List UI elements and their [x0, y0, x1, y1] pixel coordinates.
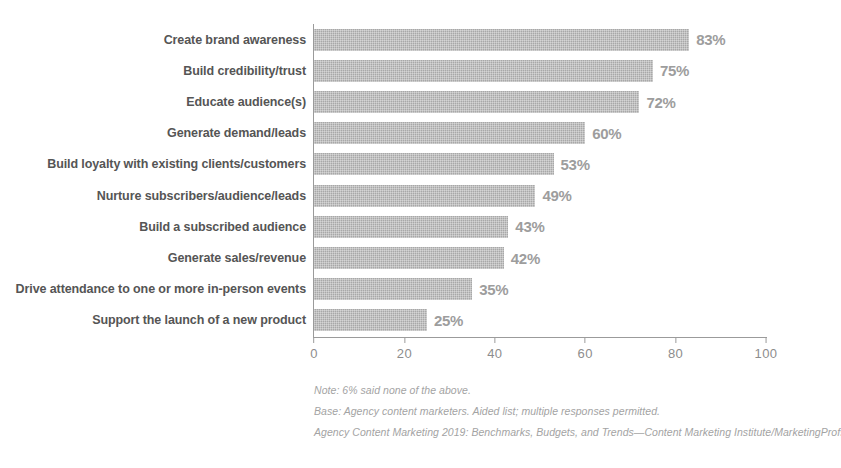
- category-label: Nurture subscribers/audience/leads: [97, 189, 306, 203]
- bar-value-label: 83%: [696, 31, 725, 48]
- bar: [314, 29, 689, 51]
- bar-row: Nurture subscribers/audience/leads49%: [314, 180, 766, 211]
- bar-value-label: 60%: [592, 125, 621, 142]
- bar-row: Educate audience(s)72%: [314, 86, 766, 117]
- category-label: Build loyalty with existing clients/cust…: [47, 157, 306, 171]
- tick-mark: [765, 338, 766, 343]
- bar: [314, 185, 535, 207]
- tick-label: 0: [310, 346, 318, 361]
- footnote-line: Note: 6% said none of the above.: [314, 380, 834, 401]
- bar-value-label: 75%: [660, 62, 689, 79]
- bar-row: Build loyalty with existing clients/cust…: [314, 149, 766, 180]
- bar: [314, 216, 508, 238]
- bar-row: Support the launch of a new product25%: [314, 305, 766, 336]
- bar: [314, 91, 639, 113]
- bar-row: Build credibility/trust75%: [314, 55, 766, 86]
- category-label: Generate demand/leads: [167, 126, 306, 140]
- plot-area: Create brand awareness83%Build credibili…: [314, 24, 766, 336]
- bar: [314, 122, 585, 144]
- bar-value-label: 42%: [511, 250, 540, 267]
- category-label: Build a subscribed audience: [139, 220, 306, 234]
- category-label: Educate audience(s): [186, 95, 306, 109]
- x-axis-tick: 40: [487, 338, 502, 361]
- category-label: Create brand awareness: [164, 33, 306, 47]
- bar: [314, 60, 653, 82]
- bar: [314, 247, 504, 269]
- bar-row: Build a subscribed audience43%: [314, 211, 766, 242]
- footnote-line: Agency Content Marketing 2019: Benchmark…: [314, 422, 834, 443]
- tick-mark: [494, 338, 495, 343]
- tick-mark: [585, 338, 586, 343]
- x-axis-tick: 20: [397, 338, 412, 361]
- bar: [314, 153, 554, 175]
- tick-label: 100: [755, 346, 778, 361]
- bar-row: Generate demand/leads60%: [314, 118, 766, 149]
- x-axis-tick: 80: [668, 338, 683, 361]
- bar-rows: Create brand awareness83%Build credibili…: [314, 24, 766, 336]
- x-axis-ticks: 020406080100: [314, 338, 766, 366]
- tick-label: 60: [578, 346, 593, 361]
- bar-value-label: 49%: [542, 187, 571, 204]
- category-label: Support the launch of a new product: [92, 313, 306, 327]
- bar-value-label: 35%: [479, 281, 508, 298]
- tick-label: 20: [397, 346, 412, 361]
- bar: [314, 309, 427, 331]
- chart-title-remnant: [300, 0, 600, 9]
- tick-mark: [675, 338, 676, 343]
- x-axis-tick: 60: [578, 338, 593, 361]
- tick-label: 80: [668, 346, 683, 361]
- bar-row: Create brand awareness83%: [314, 24, 766, 55]
- bar-value-label: 25%: [434, 312, 463, 329]
- category-label: Build credibility/trust: [183, 64, 306, 78]
- bar-value-label: 72%: [646, 94, 675, 111]
- bar-value-label: 43%: [515, 218, 544, 235]
- bar: [314, 278, 472, 300]
- bar-row: Drive attendance to one or more in-perso…: [314, 274, 766, 305]
- tick-mark: [313, 338, 314, 343]
- footnote-line: Base: Agency content marketers. Aided li…: [314, 401, 834, 422]
- bar-value-label: 53%: [561, 156, 590, 173]
- footnotes: Note: 6% said none of the above.Base: Ag…: [314, 380, 834, 443]
- bar-chart: Create brand awareness83%Build credibili…: [0, 0, 841, 468]
- x-axis-tick: 0: [310, 338, 318, 361]
- x-axis-tick: 100: [755, 338, 778, 361]
- tick-mark: [404, 338, 405, 343]
- category-label: Generate sales/revenue: [168, 251, 306, 265]
- bar-row: Generate sales/revenue42%: [314, 242, 766, 273]
- category-label: Drive attendance to one or more in-perso…: [16, 282, 306, 296]
- tick-label: 40: [487, 346, 502, 361]
